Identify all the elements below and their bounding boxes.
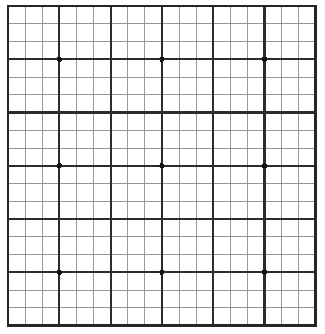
registration-dot	[57, 57, 62, 62]
registration-dot	[159, 163, 164, 168]
registration-dot	[57, 163, 62, 168]
registration-dot	[262, 270, 267, 275]
registration-dot	[262, 57, 267, 62]
registration-dot	[57, 270, 62, 275]
registration-dot	[159, 57, 164, 62]
registration-dot	[262, 163, 267, 168]
registration-dot	[159, 270, 164, 275]
grid-canvas	[0, 0, 325, 334]
grid-figure	[0, 0, 325, 334]
